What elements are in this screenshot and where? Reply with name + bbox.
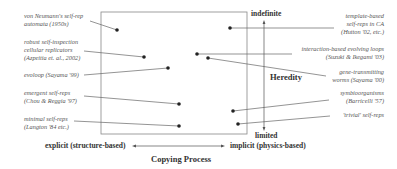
label-line: symbioorganisms <box>340 89 384 97</box>
label-line: 'trivial' self-reps <box>343 111 384 119</box>
label-emergent: emergent self-reps (Chou & Reggia '97) <box>24 89 77 105</box>
label-line: automata (1950s) <box>24 20 83 28</box>
label-line: minimal self-reps <box>24 115 69 123</box>
heredity-axis-title: Heredity <box>270 72 302 82</box>
arrow-head-right-icon <box>221 145 225 148</box>
label-minimal: minimal self-reps (Langton '84 etc.) <box>24 115 69 131</box>
label-line: (Azpeitia et. al., 2002) <box>24 54 80 62</box>
leader-minimal <box>74 121 179 126</box>
label-line: cellular replicators <box>24 46 80 54</box>
label-line: von Neumann's self-rep <box>24 12 83 20</box>
leader-evoloop <box>84 68 168 75</box>
label-robust: robust self-inspection cellular replicat… <box>24 38 80 62</box>
leader-robust <box>84 51 144 57</box>
label-symbio: symbioorganisms (Barricelli '57) <box>340 89 384 105</box>
label-line: (Hutton '02, etc.) <box>341 28 384 36</box>
leader-von-neumann <box>90 21 117 30</box>
copying-right-label: implicit (physics-based) <box>230 141 306 150</box>
arrow-head-up-icon <box>263 20 266 24</box>
label-line: (Suzuki & Ikegami '03) <box>301 53 384 61</box>
label-line: robust self-inspection <box>24 38 80 46</box>
heredity-top-label: indefinite <box>251 9 281 18</box>
label-trivial: 'trivial' self-reps <box>343 111 384 119</box>
label-line: emergent self-reps <box>24 89 77 97</box>
heredity-bottom-label: limited <box>255 131 278 140</box>
label-interaction: interaction-based evolving loops (Suzuki… <box>301 45 384 61</box>
point-trivial <box>236 122 240 126</box>
point-minimal <box>177 124 181 128</box>
label-line: template-based <box>341 12 384 20</box>
plot-frame <box>101 12 247 134</box>
label-line: worms (Sayama '00) <box>332 76 384 84</box>
label-template: template-based self-reps in CA (Hutton '… <box>341 12 384 36</box>
label-line: gene-transmitting <box>332 68 384 76</box>
label-line: evoloop (Sayama '99) <box>24 71 79 79</box>
label-von-neumann: von Neumann's self-rep automata (1950s) <box>24 12 83 28</box>
point-emergent <box>177 102 181 106</box>
point-evoloop <box>166 66 170 70</box>
arrow-head-left-icon <box>132 145 136 148</box>
label-line: (Barricelli '57) <box>340 97 384 105</box>
point-template <box>228 26 232 30</box>
leader-emergent <box>84 96 179 104</box>
label-line: self-reps in CA <box>341 20 384 28</box>
copying-axis-title: Copying Process <box>151 154 211 164</box>
point-symbio <box>231 109 235 113</box>
label-evoloop: evoloop (Sayama '99) <box>24 71 79 79</box>
point-von-neumann <box>115 28 119 32</box>
point-gene <box>206 56 210 60</box>
label-gene: gene-transmitting worms (Sayama '00) <box>332 68 384 84</box>
leader-trivial <box>238 116 330 124</box>
point-interaction <box>195 52 199 56</box>
point-robust <box>142 55 146 59</box>
label-line: (Chou & Reggia '97) <box>24 97 77 105</box>
label-line: interaction-based evolving loops <box>301 45 384 53</box>
label-line: (Langton '84 etc.) <box>24 123 69 131</box>
copying-left-label: explicit (structure-based) <box>45 141 125 150</box>
